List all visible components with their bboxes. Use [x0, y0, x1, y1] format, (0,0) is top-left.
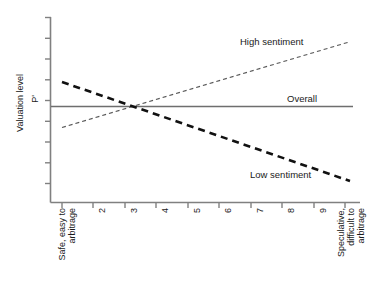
annotation-low-sentiment: Low sentiment: [250, 170, 311, 180]
x-axis-tick-label: 3: [129, 208, 139, 213]
x-axis-tick-label-line: 3: [129, 208, 139, 213]
x-axis-tick-label-line: 7: [255, 208, 265, 213]
x-axis-tick-label: 5: [192, 208, 202, 213]
x-axis-tick-label: 8: [286, 208, 296, 213]
x-axis-tick-label-line: 6: [223, 208, 233, 213]
x-axis-tick-label-line: arbitrage: [356, 208, 366, 257]
x-axis-tick-label: Safe, easy toarbitrage: [57, 208, 77, 261]
chart-figure: Valuation level P' High sentiment Overal…: [0, 0, 380, 282]
x-axis-tick-label-line: 2: [97, 208, 107, 213]
x-axis-tick-label: 9: [318, 208, 328, 213]
x-axis-tick-label-line: Safe, easy to: [57, 208, 67, 261]
x-axis-tick-label: 4: [160, 208, 170, 213]
x-axis-tick-label-line: 5: [192, 208, 202, 213]
x-axis-tick-label: 2: [97, 208, 107, 213]
x-axis-tick-label-line: 4: [160, 208, 170, 213]
y-axis-reference-label: P': [30, 95, 40, 115]
x-axis-tick-label-line: difficult to: [346, 208, 356, 257]
annotation-overall: Overall: [287, 94, 317, 104]
x-axis-tick-label: Speculative,difficult toarbitrage: [336, 208, 366, 257]
series-line-high-sentiment: [62, 42, 349, 128]
annotation-high-sentiment: High sentiment: [240, 37, 303, 47]
x-axis-tick-label: 7: [255, 208, 265, 213]
x-axis-tick-label-line: 8: [286, 208, 296, 213]
x-axis-tick-label-line: Speculative,: [336, 208, 346, 257]
y-axis-title: Valuation level: [15, 53, 25, 153]
x-axis-tick-label-line: 9: [318, 208, 328, 213]
x-axis-tick-label: 6: [223, 208, 233, 213]
x-axis-tick-label-line: arbitrage: [67, 208, 77, 261]
